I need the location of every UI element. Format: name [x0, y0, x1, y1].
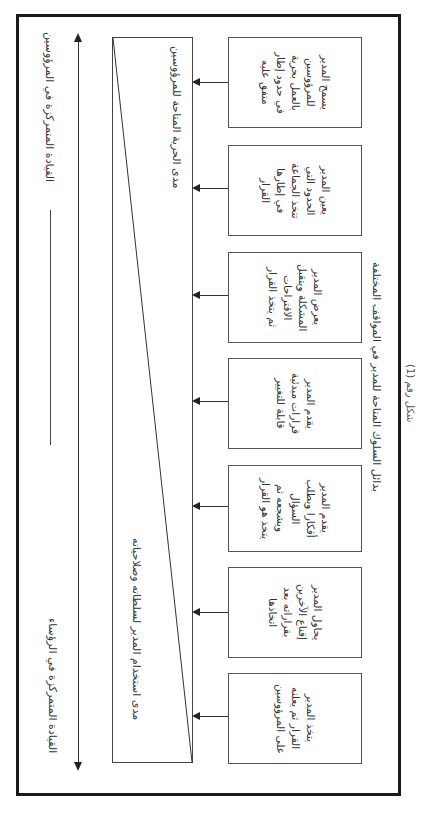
behavior-box-2: يعين المدير الحدود التي تتخذ الجماعة في …	[228, 145, 362, 236]
axis-line	[78, 40, 79, 765]
connector-line-3	[198, 295, 228, 296]
arrow-left-icon	[192, 291, 200, 299]
behavior-box-3: يعرض المدير المشكلة ويتقبل الاقتراحات ثم…	[228, 252, 362, 343]
behavior-box-text: يعين المدير الحدود التي تتخذ الجماعة في …	[258, 163, 333, 219]
connector-line-2	[198, 188, 228, 189]
arrow-left-icon	[192, 184, 200, 192]
arrow-left-icon	[192, 397, 200, 405]
behavior-box-text: يعرض المدير المشكلة ويتقبل الاقتراحات ثم…	[265, 264, 325, 331]
axis-top-label: القيادة المتمركزة في المرؤوسين	[43, 32, 56, 182]
connector-line-1	[198, 82, 228, 83]
connector-line-5	[198, 506, 228, 507]
connector-line-6	[198, 612, 228, 613]
behavior-box-text: يقدم المدير قرارات مبدئية قابلة للتغيير	[273, 373, 318, 434]
behavior-box-text: يقدم المدير أفكارا ويطلب السؤال ويشجعه ث…	[258, 478, 333, 539]
behavior-box-text: يحاول المدير إقناع الآخرين بقراراته بعد …	[265, 584, 325, 640]
arrow-left-icon	[192, 608, 200, 616]
arrow-left-icon	[192, 502, 200, 510]
behavior-box-4: يقدم المدير قرارات مبدئية قابلة للتغيير	[228, 358, 362, 449]
behavior-box-6: يحاول المدير إقناع الآخرين بقراراته بعد …	[228, 567, 362, 658]
behavior-box-7: يتخذ المدير القرار ثم يعلنه على المرؤوسي…	[228, 673, 362, 764]
behavior-box-text: يتخذ المدير القرار ثم يعلنه على المرؤوسي…	[273, 684, 318, 754]
axis-bottom-label: القيادة المتمركزة في الرؤساء	[46, 618, 59, 753]
behavior-box-5: يقدم المدير أفكارا ويطلب السؤال ويشجعه ث…	[228, 465, 362, 552]
connector-line-4	[198, 401, 228, 402]
connector-line-7	[198, 716, 228, 717]
figure-bottom-label: بدائل السلوك المتاحة للمدير في المواقف ا…	[370, 262, 383, 492]
behavior-box-text: يسمح المدير للمرؤوسين بالعمل بحرية في حد…	[258, 52, 333, 114]
arrow-left-icon	[192, 712, 200, 720]
arrow-left-icon	[192, 78, 200, 86]
axis-arrow-down-icon	[74, 762, 82, 771]
triangle-top-label: مدى الحرية المتاحة للمرؤوسين	[170, 46, 183, 188]
axis-top-guide-line	[50, 210, 51, 445]
figure-caption: شكل رقم (1)	[405, 364, 416, 422]
triangle-bottom-label: مدى استخدام المدير لسلطاته وصلاحياته	[130, 538, 143, 720]
behavior-box-1: يسمح المدير للمرؤوسين بالعمل بحرية في حد…	[228, 37, 362, 128]
axis-arrow-up-icon	[74, 33, 82, 42]
